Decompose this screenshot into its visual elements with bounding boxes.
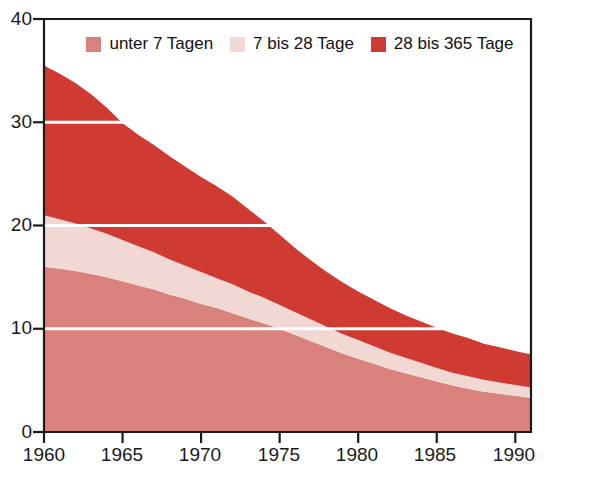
chart-legend: unter 7 Tagen 7 bis 28 Tage 28 bis 365 T… bbox=[72, 28, 528, 60]
top-text-fragment bbox=[55, 0, 375, 8]
y-tick-label-30: 30 bbox=[0, 111, 32, 133]
y-tick-label-10: 10 bbox=[0, 317, 32, 339]
x-tick-label-1980: 1980 bbox=[325, 444, 389, 466]
x-tick-label-1975: 1975 bbox=[247, 444, 311, 466]
x-tick-label-1960: 1960 bbox=[12, 444, 76, 466]
y-tick-label-20: 20 bbox=[0, 214, 32, 236]
x-tick-label-1990: 1990 bbox=[482, 444, 546, 466]
legend-label-0: unter 7 Tagen bbox=[109, 34, 213, 54]
y-tick-label-40: 40 bbox=[0, 8, 32, 30]
legend-label-1: 7 bis 28 Tage bbox=[253, 34, 354, 54]
legend-item-2[interactable]: 28 bis 365 Tage bbox=[371, 34, 514, 54]
legend-item-1[interactable]: 7 bis 28 Tage bbox=[230, 34, 354, 54]
x-tick-label-1985: 1985 bbox=[403, 444, 467, 466]
x-tick-label-1965: 1965 bbox=[90, 444, 154, 466]
x-tick-label-1970: 1970 bbox=[168, 444, 232, 466]
stacked-area-chart bbox=[0, 0, 600, 481]
legend-swatch-unter-7-tagen bbox=[86, 37, 101, 52]
legend-swatch-28-bis-365-tage bbox=[371, 37, 386, 52]
legend-label-2: 28 bis 365 Tage bbox=[394, 34, 514, 54]
y-tick-label-0: 0 bbox=[0, 421, 32, 443]
legend-item-0[interactable]: unter 7 Tagen bbox=[86, 34, 213, 54]
legend-swatch-7-bis-28-tage bbox=[230, 37, 245, 52]
